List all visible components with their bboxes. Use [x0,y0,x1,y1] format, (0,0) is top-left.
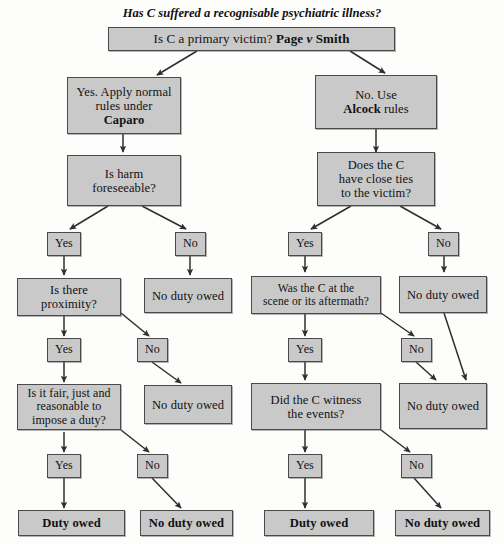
left-q2-line1: Is there [50,283,88,297]
node-right-branch-entry[interactable]: No. Use Alcock rules [315,75,437,129]
label-left-q2-no[interactable]: No [137,338,168,362]
right-q1-line3: to the victim? [341,186,411,200]
right-entry-line1: No. Use [355,88,397,102]
label-right-q3-no[interactable]: No [401,454,432,478]
label-left-q3-yes[interactable]: Yes [47,454,81,478]
root-question-text: Is C a primary victim? [154,31,277,46]
right-q3-line2: the events? [288,407,345,421]
left-no1-text: No [180,237,201,250]
edge-left-q1-yes [70,206,108,229]
right-duty-owed-text: Duty owed [287,516,352,530]
edge-root-to-right-entry [350,51,385,73]
right-q3-line1: Did the C witness [271,393,362,407]
right-noduty-3-text: No duty owed [402,516,483,530]
edge-right-nodutyA-down [444,313,466,380]
right-no1-text: No [433,237,454,250]
left-noduty-3-text: No duty owed [146,516,227,530]
left-yes1-text: Yes [52,237,76,250]
edge-right-q3-no [381,430,410,452]
left-duty-owed-text: Duty owed [39,516,104,530]
outcome-left-noduty-3[interactable]: No duty owed [140,510,233,536]
edge-right-no3-to-noduty [414,478,441,508]
case-citation-smith: Smith [316,31,350,46]
left-q3-line1: Is it fair, just and [27,386,110,400]
node-right-q2-scene-aftermath[interactable]: Was the C at the scene or its aftermath? [251,276,381,314]
label-right-q2-yes[interactable]: Yes [288,338,322,362]
left-entry-line3: Caparo [104,113,145,127]
left-q3-line2: reasonable to [37,399,102,413]
right-yes2-text: Yes [293,343,317,356]
right-yes3-text: Yes [293,459,317,472]
left-entry-line1: Yes. Apply normal [76,85,171,99]
right-q1-line1: Does the C [348,158,405,172]
label-right-q3-yes[interactable]: Yes [288,454,322,478]
left-q3-line3: impose a duty? [32,413,106,427]
label-left-q1-yes[interactable]: Yes [47,232,81,256]
right-q2-line2: scene or its aftermath? [263,295,369,307]
right-q1-line2: have close ties [339,172,413,186]
label-right-q1-yes[interactable]: Yes [288,232,322,256]
left-q1-line2: foreseeable? [92,181,156,195]
right-no3-text: No [406,459,427,472]
label-right-q2-no[interactable]: No [401,338,432,362]
diagram-title: Has C suffered a recognisable psychiatri… [106,6,398,21]
node-root-question[interactable]: Is C a primary victim? Page v Smith [108,27,395,51]
outcome-right-noduty-1[interactable]: No duty owed [399,276,487,313]
left-q2-line2: proximity? [41,297,97,311]
edge-left-no2-to-nodutyB [152,362,181,383]
label-right-q1-no[interactable]: No [428,232,459,256]
outcome-right-duty-owed[interactable]: Duty owed [264,510,374,536]
node-left-q1-foreseeability[interactable]: Is harm foreseeable? [67,155,181,206]
edge-left-q2-no [121,313,149,336]
label-left-q3-no[interactable]: No [137,454,168,478]
outcome-left-noduty-2[interactable]: No duty owed [144,385,232,424]
outcome-right-noduty-3[interactable]: No duty owed [395,510,490,536]
outcome-right-noduty-2[interactable]: No duty owed [399,383,487,429]
left-no3-text: No [142,459,163,472]
left-no2-text: No [142,343,163,356]
right-entry-bold-word: Alcock [343,102,380,116]
left-noduty-2-text: No duty owed [149,398,227,412]
outcome-left-duty-owed[interactable]: Duty owed [18,510,125,536]
node-right-q3-witness-events[interactable]: Did the C witness the events? [251,383,381,430]
outcome-left-noduty-1[interactable]: No duty owed [144,278,232,313]
case-citation-page: Page [276,31,303,46]
edge-root-to-left-entry [157,51,197,75]
edge-right-q1-yes [311,206,351,229]
right-q2-line1: Was the C at the [278,282,355,294]
right-noduty-1-text: No duty owed [404,288,482,302]
node-left-q3-fair-just-reasonable[interactable]: Is it fair, just and reasonable to impos… [17,384,121,430]
left-noduty-1-text: No duty owed [149,289,227,303]
edge-right-no2-to-nodutyB [416,362,436,380]
edge-right-q1-no [400,206,441,229]
case-citation-v: v [307,31,316,46]
node-right-q1-close-ties[interactable]: Does the C have close ties to the victim… [317,152,435,206]
left-yes2-text: Yes [52,343,76,356]
right-no2-text: No [406,343,427,356]
edge-left-q1-no [142,206,186,229]
edge-right-q2-no [381,313,414,336]
right-entry-rest: rules [381,102,409,116]
label-left-q1-no[interactable]: No [175,232,206,256]
label-left-q2-yes[interactable]: Yes [47,338,81,362]
flowchart-page: Has C suffered a recognisable psychiatri… [0,0,504,544]
right-noduty-2-text: No duty owed [404,399,482,413]
edge-left-q3-no [121,430,149,452]
right-yes1-text: Yes [293,237,317,250]
node-left-q2-proximity[interactable]: Is there proximity? [17,278,121,316]
left-yes3-text: Yes [52,459,76,472]
left-entry-line2: rules under [96,99,153,113]
node-left-branch-entry[interactable]: Yes. Apply normal rules under Caparo [67,77,181,134]
edge-left-no3-to-noduty [152,478,181,508]
left-q1-line1: Is harm [105,167,144,181]
